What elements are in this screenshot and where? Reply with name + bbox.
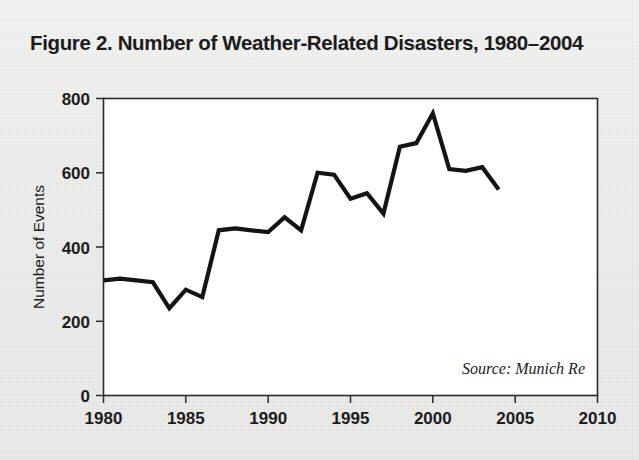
x-tick-label: 1995	[332, 409, 370, 428]
source-note: Source: Munich Re	[462, 360, 585, 377]
x-tick-label: 1985	[167, 409, 205, 428]
y-tick-label: 400	[62, 239, 90, 258]
x-axis-tick-marks	[104, 396, 598, 404]
figure-container: Figure 2. Number of Weather-Related Disa…	[0, 0, 639, 460]
x-tick-label: 2005	[496, 409, 534, 428]
y-tick-label: 800	[62, 90, 90, 109]
y-tick-label: 0	[81, 387, 90, 406]
x-axis-tick-labels: 1980 1985 1990 1995 2000 2005 2010	[85, 409, 617, 428]
y-axis-tick-marks	[96, 99, 104, 396]
y-axis-tick-labels: 800 600 400 200 0	[62, 90, 90, 406]
x-tick-label: 1990	[249, 409, 287, 428]
x-tick-label: 2010	[579, 409, 617, 428]
x-tick-label: 2000	[414, 409, 452, 428]
plot-area-wrapper: 800 600 400 200 0 1980 1985 1990 1995 20…	[0, 0, 639, 460]
x-tick-label: 1980	[85, 409, 123, 428]
y-axis-title: Number of Events	[30, 185, 47, 309]
plot-frame	[104, 99, 598, 396]
y-tick-label: 600	[62, 164, 90, 183]
line-chart: 800 600 400 200 0 1980 1985 1990 1995 20…	[0, 0, 639, 460]
y-tick-label: 200	[62, 313, 90, 332]
